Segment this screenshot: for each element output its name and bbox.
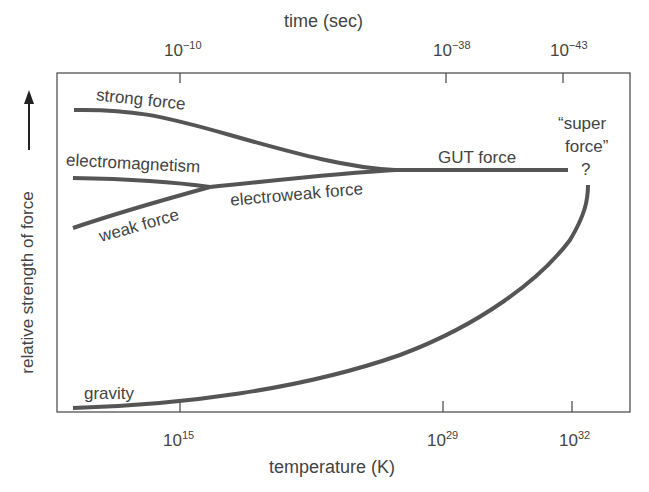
tick-exponent: 32 [578,429,590,441]
tick-base: 10 [427,431,446,450]
top-tick-label: 10−10 [164,40,202,59]
tick-base: 10 [164,41,183,60]
bottom-tick-label: 1029 [427,430,458,449]
tick-exponent: −10 [183,39,202,51]
top-tick-label: 10−38 [433,40,471,59]
super-force-label-line2: force” [565,138,608,155]
bottom-tick-label: 1015 [163,430,194,449]
bottom-tick-label: 1032 [559,430,590,449]
gravity-label: gravity [84,385,134,402]
super-force-label-line1: “super [558,115,606,132]
tick-exponent: 29 [446,429,458,441]
top-axis-title: time (sec) [284,12,363,30]
top-tick-label: 10−43 [550,40,588,59]
tick-base: 10 [550,41,569,60]
tick-exponent: −38 [452,39,471,51]
chart-canvas [0,0,649,492]
electromagnetism-line [73,178,210,187]
arrow-up-icon [24,90,34,104]
bottom-axis-title: temperature (K) [269,458,395,476]
tick-base: 10 [163,431,182,450]
tick-exponent: 15 [182,429,194,441]
gut-force-label: GUT force [438,149,516,166]
plot-frame [57,73,630,412]
tick-base: 10 [433,41,452,60]
super-force-question: ? [581,161,590,178]
y-axis-title: relative strength of force [19,188,36,378]
tick-exponent: −43 [569,39,588,51]
tick-base: 10 [559,431,578,450]
